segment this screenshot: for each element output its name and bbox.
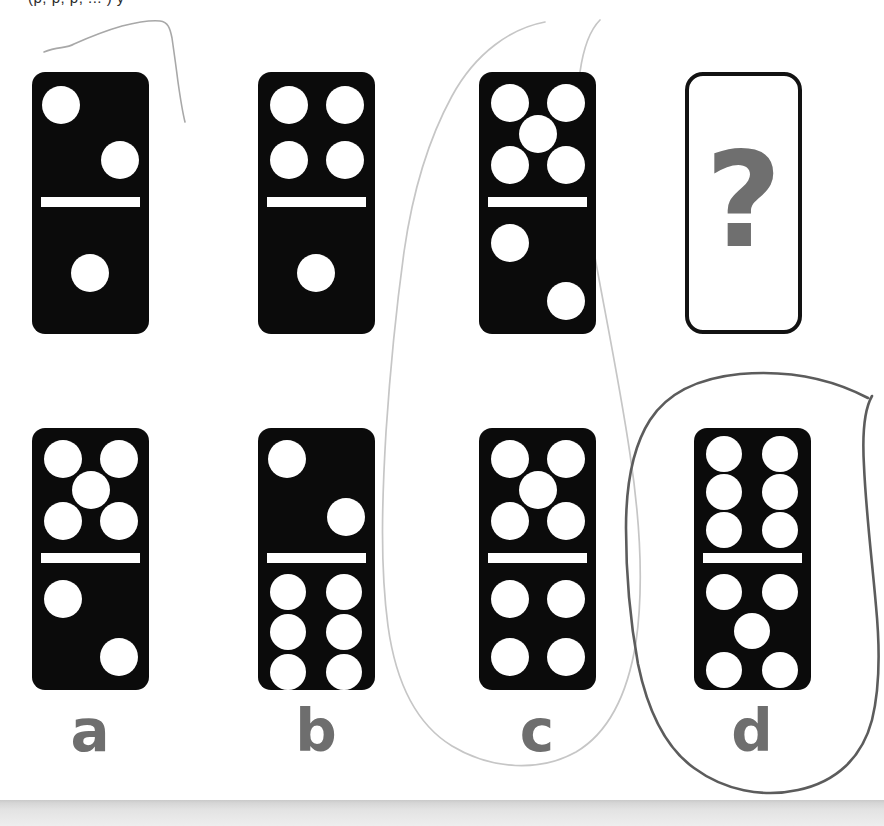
pip bbox=[519, 115, 557, 153]
pip bbox=[706, 574, 742, 610]
pip bbox=[491, 146, 529, 184]
pip bbox=[491, 580, 529, 618]
pip bbox=[270, 86, 308, 124]
pip bbox=[326, 141, 364, 179]
domino-top-half bbox=[32, 428, 149, 549]
sequence-domino-3 bbox=[479, 72, 596, 334]
option-label-a: a bbox=[30, 697, 150, 765]
pip bbox=[706, 436, 742, 472]
domino-top-half bbox=[479, 72, 596, 193]
domino-bottom-half bbox=[32, 210, 149, 334]
pip bbox=[100, 638, 138, 676]
domino-bottom-half bbox=[258, 210, 375, 334]
pip bbox=[268, 440, 306, 478]
pip bbox=[100, 440, 138, 478]
pip bbox=[706, 512, 742, 548]
question-mark-icon: ? bbox=[705, 134, 782, 266]
pip bbox=[706, 474, 742, 510]
pip bbox=[100, 502, 138, 540]
option-label-b: b bbox=[256, 697, 376, 765]
pip bbox=[547, 84, 585, 122]
domino-divider bbox=[267, 197, 366, 207]
pip bbox=[762, 436, 798, 472]
pip bbox=[762, 474, 798, 510]
domino-bottom-half bbox=[258, 566, 375, 690]
option-a[interactable] bbox=[32, 428, 149, 690]
domino-bottom-half bbox=[479, 566, 596, 690]
pip bbox=[491, 502, 529, 540]
cropped-header-text: (p, p, p, ... ) y bbox=[0, 0, 884, 9]
pip bbox=[44, 440, 82, 478]
domino-divider bbox=[41, 553, 140, 563]
pip bbox=[762, 574, 798, 610]
domino-divider bbox=[488, 197, 587, 207]
question-tile[interactable]: ? bbox=[685, 72, 802, 334]
pip bbox=[547, 282, 585, 320]
pip bbox=[42, 86, 80, 124]
puzzle-canvas: (p, p, p, ... ) y bbox=[0, 0, 884, 826]
pip bbox=[491, 440, 529, 478]
pip bbox=[491, 224, 529, 262]
pip bbox=[72, 471, 110, 509]
pip bbox=[326, 574, 362, 610]
domino-divider bbox=[488, 553, 587, 563]
domino-divider bbox=[41, 197, 140, 207]
domino-top-half bbox=[479, 428, 596, 549]
pip bbox=[71, 254, 109, 292]
option-label-d: d bbox=[692, 697, 812, 765]
domino-top-half bbox=[258, 428, 375, 549]
domino-divider bbox=[267, 553, 366, 563]
pip bbox=[547, 580, 585, 618]
domino-top-half bbox=[258, 72, 375, 193]
domino-bottom-half bbox=[479, 210, 596, 334]
pip bbox=[547, 146, 585, 184]
bottom-gray-strip bbox=[0, 800, 884, 826]
pip bbox=[326, 654, 362, 690]
pip bbox=[326, 86, 364, 124]
option-c[interactable] bbox=[479, 428, 596, 690]
pip bbox=[547, 638, 585, 676]
domino-bottom-half bbox=[32, 566, 149, 690]
pip bbox=[101, 141, 139, 179]
option-d[interactable] bbox=[694, 428, 811, 690]
pip bbox=[270, 654, 306, 690]
pip bbox=[270, 574, 306, 610]
pip bbox=[270, 141, 308, 179]
pip bbox=[44, 580, 82, 618]
pip bbox=[547, 502, 585, 540]
pip bbox=[327, 498, 365, 536]
pip bbox=[762, 652, 798, 688]
sequence-domino-1 bbox=[32, 72, 149, 334]
pip bbox=[297, 254, 335, 292]
pip bbox=[491, 84, 529, 122]
option-b[interactable] bbox=[258, 428, 375, 690]
sequence-domino-2 bbox=[258, 72, 375, 334]
option-label-c: c bbox=[477, 697, 597, 765]
pip bbox=[762, 512, 798, 548]
domino-divider bbox=[703, 553, 802, 563]
pip bbox=[734, 613, 770, 649]
domino-top-half bbox=[32, 72, 149, 193]
pip bbox=[706, 652, 742, 688]
pip bbox=[270, 614, 306, 650]
pip bbox=[547, 440, 585, 478]
domino-top-half bbox=[694, 428, 811, 549]
pip bbox=[44, 502, 82, 540]
domino-bottom-half bbox=[694, 566, 811, 690]
pip bbox=[519, 471, 557, 509]
pip bbox=[326, 614, 362, 650]
pip bbox=[491, 638, 529, 676]
